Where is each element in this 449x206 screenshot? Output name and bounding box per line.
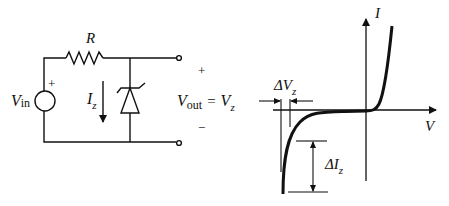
output-terminal-bottom — [177, 141, 182, 146]
left-wire-bottom — [44, 111, 176, 142]
resistor-label: R — [85, 30, 95, 46]
output-minus-sign: − — [198, 120, 205, 135]
y-axis-label: I — [374, 5, 381, 21]
delta-vz-label: ΔVz — [273, 77, 297, 97]
vin-label: Vin — [11, 92, 30, 110]
voltage-source-icon — [35, 91, 55, 111]
source-plus-sign: + — [48, 76, 55, 91]
output-plus-sign: + — [198, 63, 205, 78]
vout-equation: Vout=Vz — [177, 92, 235, 113]
delta-iz-label: ΔIz — [324, 156, 344, 176]
iz-label: Iz — [86, 90, 97, 111]
resistor-icon — [66, 52, 103, 64]
zener-regulator-circuit — [35, 52, 181, 145]
x-axis-label: V — [425, 118, 436, 134]
output-terminal-top — [177, 56, 182, 61]
zener-diagram: R + Vin Iz + − Vout=Vz I V ΔVz ΔIz — [0, 0, 449, 206]
zener-iv-graph — [259, 19, 436, 194]
zener-diode-icon — [121, 88, 139, 113]
